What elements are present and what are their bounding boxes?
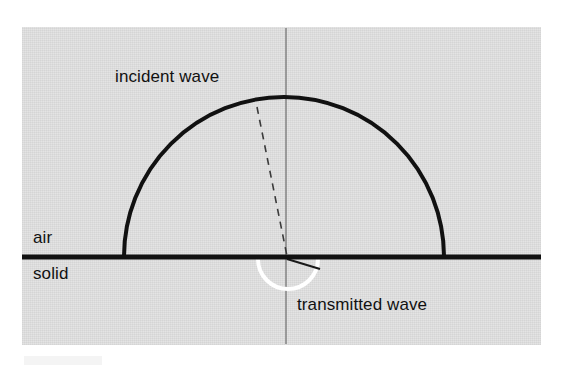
incident-wave-label: incident wave <box>115 68 219 85</box>
page-smudge <box>24 356 102 365</box>
figure-root: incident wave air solid transmitted wave <box>0 0 564 371</box>
transmitted-wavefront-arc <box>258 259 318 289</box>
incident-ray-dashed <box>257 107 287 256</box>
incident-wavefront-arc <box>124 97 444 257</box>
air-label: air <box>33 229 52 246</box>
transmitted-ray <box>287 259 320 269</box>
solid-label: solid <box>33 265 68 282</box>
transmitted-wave-label: transmitted wave <box>297 296 427 313</box>
diagram-canvas <box>0 0 564 371</box>
